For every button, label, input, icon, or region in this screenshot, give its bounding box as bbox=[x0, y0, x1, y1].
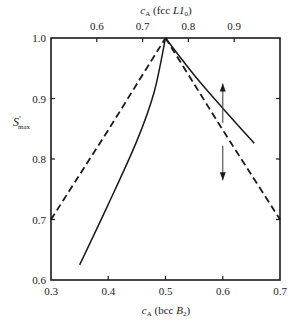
plot-frame bbox=[51, 38, 280, 280]
y-tick-label: 0.9 bbox=[32, 93, 46, 105]
plot-border bbox=[51, 38, 280, 280]
bottom-axis-label: cA (bcc B2) bbox=[142, 304, 191, 318]
x-tick-label: 0.7 bbox=[273, 285, 287, 297]
chart: 0.30.40.50.60.70.60.70.80.90.60.70.80.91… bbox=[0, 0, 297, 326]
top-axis-label: cA (fcc L10) bbox=[140, 4, 192, 18]
solid-curve bbox=[166, 38, 255, 143]
y-tick-label: 0.7 bbox=[32, 214, 46, 226]
dashed-curve bbox=[51, 38, 166, 220]
x-tick-label: 0.5 bbox=[159, 285, 173, 297]
data-series bbox=[51, 38, 280, 265]
x-tick-label: 0.3 bbox=[44, 285, 58, 297]
top-x-tick-label: 0.8 bbox=[182, 20, 196, 32]
solid-curve bbox=[80, 38, 166, 265]
y-tick-label: 0.8 bbox=[32, 153, 46, 165]
x-tick-label: 0.4 bbox=[101, 285, 115, 297]
y-axis-label: S′max bbox=[13, 114, 31, 131]
arrow-down-icon bbox=[220, 172, 226, 180]
top-x-tick-label: 0.6 bbox=[90, 20, 104, 32]
arrow-up-icon bbox=[220, 83, 226, 91]
top-x-tick-label: 0.9 bbox=[227, 20, 241, 32]
axis-tick-labels: 0.30.40.50.60.70.60.70.80.90.60.70.80.91… bbox=[32, 20, 287, 297]
y-tick-label: 0.6 bbox=[32, 274, 46, 286]
axis-ticks bbox=[51, 38, 280, 280]
dashed-curve bbox=[166, 38, 281, 220]
top-x-tick-label: 0.7 bbox=[136, 20, 150, 32]
x-tick-label: 0.6 bbox=[216, 285, 230, 297]
y-tick-label: 1.0 bbox=[32, 32, 46, 44]
